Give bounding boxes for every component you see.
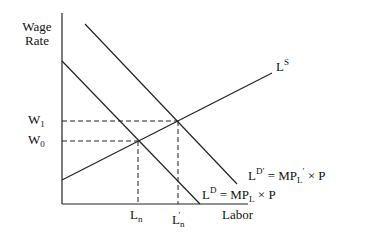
tick-w0-base: W <box>28 132 40 147</box>
demand-eq: = MP <box>220 187 249 202</box>
demand-shifted-base: L <box>248 168 256 183</box>
supply-label-sup: S <box>284 57 289 67</box>
demand-shifted-tail: × P <box>308 168 326 183</box>
diagram-canvas <box>0 0 368 237</box>
tick-ln: Ln <box>130 208 142 226</box>
demand-shifted-sup: D′ <box>256 166 264 176</box>
demand-shifted-eq: = MP <box>268 168 297 183</box>
tick-ln-sub: n <box>138 214 143 224</box>
demand-sup: D <box>210 185 217 195</box>
y-axis-label: Wage Rate <box>20 20 54 48</box>
y-axis-label-line2: Rate <box>20 34 54 48</box>
supply-label-base: L <box>276 59 284 74</box>
tick-w1-base: W <box>28 112 40 127</box>
demand-sub: L <box>249 194 255 204</box>
demand-shifted-prime: ′ <box>303 166 305 176</box>
demand-curve-shifted <box>85 24 237 184</box>
tick-w1: W1 <box>28 113 45 131</box>
tick-ln-prime: Ln′ <box>172 208 180 231</box>
demand-base: L <box>202 187 210 202</box>
tick-ln-prime-sub: n <box>180 219 185 229</box>
demand-tail: × P <box>258 187 276 202</box>
tick-w1-sub: 1 <box>40 119 45 129</box>
supply-label: LS <box>276 55 289 74</box>
demand-curve <box>62 61 200 204</box>
demand-shifted-sub: L <box>297 175 303 185</box>
supply-curve <box>62 73 272 180</box>
tick-w0-sub: 0 <box>40 139 45 149</box>
x-axis-label: Labor <box>222 208 253 222</box>
tick-ln-base: L <box>130 207 138 222</box>
demand-label: LD = MPL × P <box>202 183 276 206</box>
y-axis-label-line1: Wage <box>20 20 54 34</box>
tick-w0: W0 <box>28 133 45 151</box>
